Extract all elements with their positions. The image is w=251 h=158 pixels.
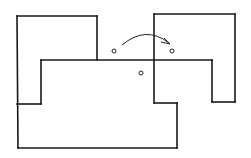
diagram-canvas	[0, 0, 251, 158]
segment-left-outer	[17, 16, 18, 148]
shape-outlines	[17, 14, 235, 148]
rotation-target-point	[170, 49, 174, 53]
marked-points	[112, 49, 174, 75]
rotation-center-point	[139, 71, 143, 75]
rotation-arc	[122, 34, 169, 45]
rotation-arrow	[122, 34, 170, 45]
rotation-source-point	[112, 49, 116, 53]
